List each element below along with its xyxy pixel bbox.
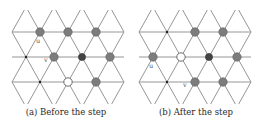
dark-vertex	[78, 53, 85, 60]
diagonal-edge	[112, 10, 124, 32]
small-vertex-dot	[166, 31, 168, 33]
diagonal-edge	[12, 82, 24, 104]
diagonal-edge	[12, 10, 24, 32]
lattice-diagram-after: uv	[132, 0, 264, 105]
diagonal-edge	[112, 82, 124, 104]
panel-after-step: uv (b) After the step	[132, 0, 264, 129]
gray-vertex	[64, 28, 72, 36]
panel-before-step: uv (a) Before the step	[0, 0, 132, 129]
diagonal-edge	[239, 82, 251, 104]
gray-vertex	[191, 78, 199, 86]
vertex-label-u: u	[36, 37, 40, 45]
gray-vertex	[233, 53, 241, 61]
gray-vertex	[92, 28, 100, 36]
caption-before-step: (a) Before the step	[0, 107, 132, 117]
gray-vertex	[219, 28, 227, 36]
gray-vertex	[50, 53, 58, 61]
gray-vertex	[92, 78, 100, 86]
small-vertex-dot	[39, 81, 41, 83]
vertex-label-u: u	[149, 62, 153, 70]
diagonal-edge	[239, 10, 251, 32]
vertex-label-v: v	[182, 81, 187, 89]
empty-vertex	[64, 78, 72, 86]
lattice-diagram-before: uv	[0, 0, 132, 105]
caption-after-step: (b) After the step	[130, 107, 262, 117]
gray-vertex	[36, 28, 44, 36]
gray-vertex	[191, 28, 199, 36]
diagonal-edge	[139, 10, 151, 32]
small-vertex-dot	[166, 81, 168, 83]
empty-vertex	[177, 53, 185, 61]
gray-vertex	[219, 78, 227, 86]
gray-vertex	[106, 53, 114, 61]
gray-vertex	[149, 53, 157, 61]
vertex-label-v: v	[43, 56, 48, 64]
small-vertex-dot	[25, 56, 27, 58]
diagonal-edge	[139, 82, 151, 104]
dark-vertex	[205, 53, 212, 60]
